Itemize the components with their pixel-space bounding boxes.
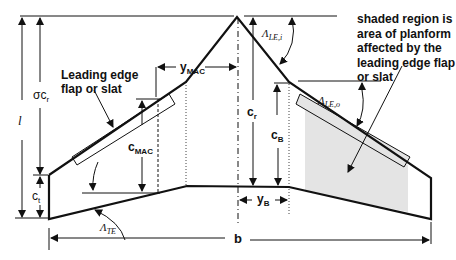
shaded-note-line-5: or slat [357, 70, 455, 85]
shaded-note-line-3: affected by the [357, 41, 455, 56]
shaded-note-line-1: shaded region is [357, 12, 455, 27]
le-outer-angle-label: ΛLE,o [318, 94, 340, 109]
ct-label: ct [32, 189, 40, 205]
cmac-label: cMAC [128, 140, 153, 159]
flap-label-line-1: Leading edge [61, 68, 138, 82]
ymac-label: yMAC [180, 60, 205, 79]
flap-outline-left [72, 94, 175, 165]
span-b-label: b [234, 232, 242, 246]
te-angle-leader-left [93, 162, 98, 190]
shaded-region-note: shaded region is area of planform affect… [357, 12, 455, 85]
shaded-note-line-4: leading edge flap [357, 56, 455, 71]
le-outer-angle-arc [357, 90, 363, 126]
te-angle-label: ΛTE [100, 221, 116, 236]
flap-label: Leading edge flap or slat [61, 68, 138, 96]
shaded-note-line-2: area of planform [357, 27, 455, 42]
flap-label-line-2: flap or slat [61, 82, 138, 96]
l-label: l [18, 113, 22, 129]
le-inner-angle-label: ΛLE,i [262, 27, 282, 42]
cb-label: cB [271, 128, 283, 147]
sigma-cr-label: σcr [33, 88, 49, 104]
yb-label: yB [257, 192, 269, 211]
cr-label: cr [247, 105, 257, 124]
